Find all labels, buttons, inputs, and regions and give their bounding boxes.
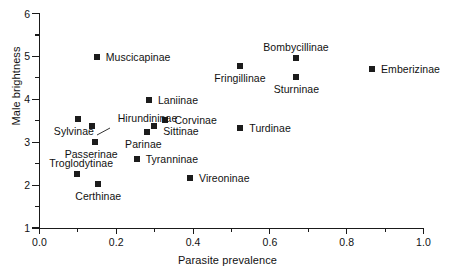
data-point-marker (187, 175, 193, 181)
data-point-label: Certhinae (75, 190, 121, 202)
x-tick-major (269, 229, 270, 234)
data-point-marker (89, 123, 95, 129)
y-tick-major (32, 56, 39, 57)
x-tick-label: 0.6 (262, 236, 277, 248)
x-tick-label: 0.4 (186, 236, 201, 248)
data-point-marker (92, 139, 98, 145)
y-tick-major (32, 13, 39, 14)
y-tick-minor (35, 34, 39, 35)
y-tick-minor (35, 77, 39, 78)
x-tick-major (116, 229, 117, 234)
y-tick-major (32, 185, 39, 186)
x-tick-minor (231, 229, 232, 232)
x-tick-minor (308, 229, 309, 232)
data-point-label: Parinae (125, 138, 162, 150)
data-point-marker (237, 63, 243, 69)
y-tick-label: 6 (16, 8, 30, 20)
data-point-marker (293, 74, 299, 80)
data-point-marker (74, 171, 80, 177)
data-point-marker (237, 125, 243, 131)
data-point-marker (293, 55, 299, 61)
data-point-marker (95, 181, 101, 187)
data-point-label: Tyranninae (146, 153, 198, 165)
data-point-marker (94, 54, 100, 60)
data-point-label: Emberizinae (381, 63, 440, 75)
y-tick-minor (35, 120, 39, 121)
x-tick-label: 1.0 (416, 236, 431, 248)
x-tick-label: 0.8 (339, 236, 354, 248)
x-axis-title: Parasite prevalence (0, 254, 455, 266)
y-axis-title: Male brightness (10, 26, 22, 146)
data-point-label: Bombycillinae (263, 41, 328, 53)
data-point-marker (146, 97, 152, 103)
data-point-label: Hirundininae (118, 112, 178, 124)
x-tick-minor (77, 229, 78, 232)
y-tick-major (32, 142, 39, 143)
data-point-label: Sturninae (274, 83, 319, 95)
y-tick-major (32, 227, 39, 228)
x-tick-minor (154, 229, 155, 232)
data-point-label: Fringillinae (214, 72, 265, 84)
x-tick-minor (385, 229, 386, 232)
x-tick-major (346, 229, 347, 234)
x-tick-label: 0.0 (32, 236, 47, 248)
x-tick-major (193, 229, 194, 234)
data-point-label: Sittinae (163, 125, 198, 137)
data-point-marker (75, 116, 81, 122)
data-point-marker (369, 66, 375, 72)
y-tick-label: 2 (16, 179, 30, 191)
y-axis-line (39, 13, 40, 229)
x-tick-major (39, 229, 40, 234)
data-point-label: Corvinae (174, 114, 216, 126)
scatter-plot-figure: 0.00.20.40.60.81.0123456 MuscicapinaeBom… (0, 0, 455, 276)
data-point-label: Laniinae (158, 94, 198, 106)
data-point-label: Turdinae (249, 122, 290, 134)
data-point-marker (144, 129, 150, 135)
data-point-label: Muscicapinae (106, 51, 171, 63)
data-point-marker (134, 156, 140, 162)
x-tick-label: 0.2 (109, 236, 124, 248)
y-tick-label: 1 (16, 222, 30, 234)
y-tick-minor (35, 163, 39, 164)
data-point-label: Vireoninae (199, 172, 250, 184)
y-tick-minor (35, 206, 39, 207)
hirundininae-leader-line (0, 0, 455, 276)
data-point-marker (151, 123, 157, 129)
x-tick-major (423, 229, 424, 234)
y-tick-major (32, 99, 39, 100)
data-point-label: Troglodytinae (49, 157, 113, 169)
